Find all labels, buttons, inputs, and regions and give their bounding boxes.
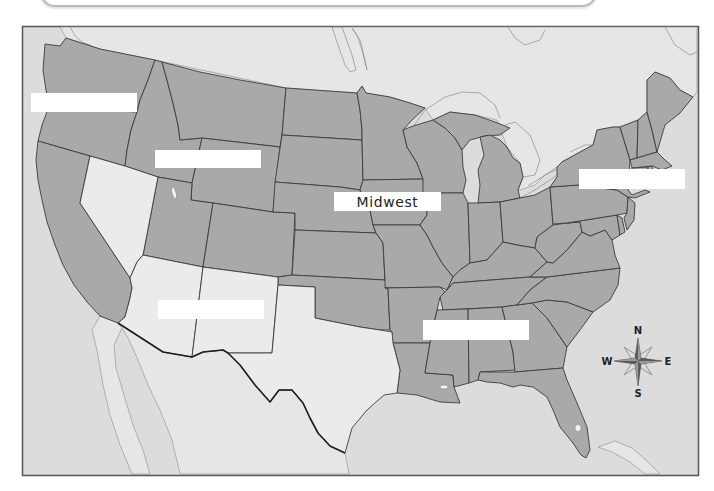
region-label-box-southwest[interactable] xyxy=(158,300,264,319)
state-north-dakota xyxy=(282,88,362,140)
compass-west-label: W xyxy=(601,356,612,367)
compass-north-label: N xyxy=(634,325,642,336)
state-south-dakota xyxy=(275,135,363,190)
region-label-box-midwest[interactable]: Midwest xyxy=(334,192,441,211)
us-regions-map: N S W E xyxy=(0,0,714,491)
region-label-box-northeast[interactable] xyxy=(579,169,685,189)
compass-south-label: S xyxy=(634,388,641,399)
region-label-box-mountain-west[interactable] xyxy=(155,150,261,168)
lake-pontchartrain xyxy=(440,385,448,389)
state-colorado xyxy=(203,203,295,277)
lake-okeechobee xyxy=(575,425,581,432)
region-label-box-southeast[interactable] xyxy=(423,320,529,340)
state-kansas xyxy=(292,230,385,280)
region-label-box-pacific-northwest[interactable] xyxy=(31,93,137,112)
compass-east-label: E xyxy=(665,356,672,367)
